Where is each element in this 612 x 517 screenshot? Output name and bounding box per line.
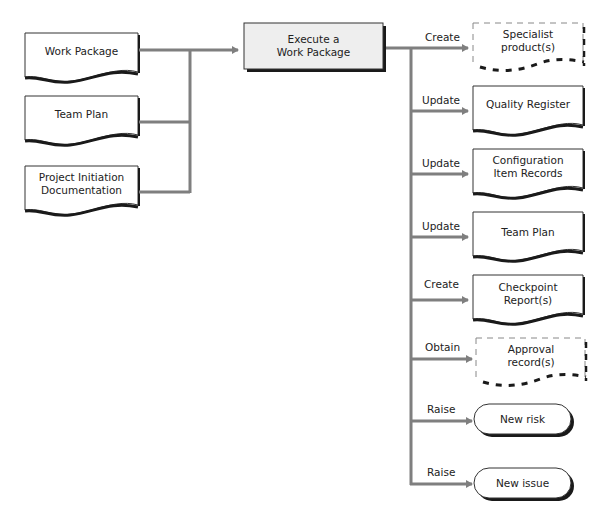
output-label-configuration-item-records: Configuration Item Records <box>473 149 583 185</box>
input-label-work-package: Work Package <box>25 33 138 69</box>
output-label-team-plan: Team Plan <box>473 212 583 252</box>
output-label-new-issue: New issue <box>474 468 571 498</box>
verb-label-raise: Raise <box>427 403 455 415</box>
input-connectors <box>139 50 238 193</box>
verb-label-update: Update <box>422 220 460 232</box>
verb-label-create: Create <box>425 31 460 43</box>
verb-label-raise: Raise <box>427 466 455 478</box>
output-label-checkpoint-reports: Checkpoint Report(s) <box>473 275 583 313</box>
output-label-approval-records: Approval record(s) <box>476 339 586 373</box>
verb-label-obtain: Obtain <box>425 341 460 353</box>
process-label: Execute a Work Package <box>244 23 383 69</box>
input-label-team-plan: Team Plan <box>25 96 138 132</box>
output-connectors <box>386 48 472 485</box>
input-label-pid: Project Initiation Documentation <box>25 166 138 202</box>
verb-label-create: Create <box>424 278 459 290</box>
verb-label-update: Update <box>422 157 460 169</box>
verb-label-update: Update <box>422 94 460 106</box>
output-label-specialist-products: Specialist product(s) <box>473 24 583 58</box>
diagram-canvas <box>0 0 612 517</box>
output-label-new-risk: New risk <box>474 404 571 434</box>
output-label-quality-register: Quality Register <box>473 86 583 122</box>
